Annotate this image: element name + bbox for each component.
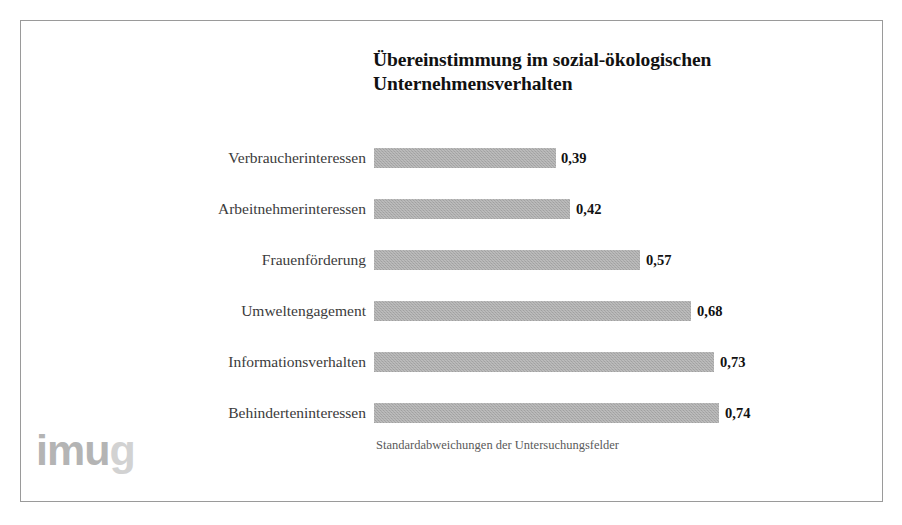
bar-track	[374, 301, 691, 321]
bar-track	[374, 250, 640, 270]
bar-track	[374, 403, 719, 423]
bar-fill	[374, 403, 719, 423]
bar-value-label: 0,68	[697, 302, 722, 319]
bar-track	[374, 199, 570, 219]
bar-fill	[374, 301, 691, 321]
bar-chart-plot-area: Verbraucherinteressen 0,39 Arbeitnehmeri…	[0, 136, 902, 420]
bar-fill	[374, 250, 640, 270]
bar-category-label: Behinderteninteressen	[228, 404, 366, 422]
chart-title-line-2: Unternehmensverhalten	[373, 72, 843, 96]
bar-row: Arbeitnehmerinteressen 0,42	[0, 187, 902, 230]
bar-value-label: 0,42	[576, 200, 601, 217]
bar-value-label: 0,73	[720, 353, 745, 370]
bar-fill	[374, 148, 556, 168]
bar-category-label: Umweltengagement	[241, 302, 366, 320]
bar-value-label: 0,39	[561, 149, 586, 166]
bar-fill	[374, 199, 570, 219]
imug-logo: imug	[36, 427, 135, 473]
bar-fill	[374, 352, 714, 372]
chart-figure: Übereinstimmung im sozial-ökologischen U…	[0, 0, 902, 525]
bar-category-label: Frauenförderung	[262, 251, 366, 269]
bar-row: Umweltengagement 0,68	[0, 289, 902, 332]
chart-caption: Standardabweichungen der Untersuchungsfe…	[376, 438, 619, 453]
bar-value-label: 0,74	[725, 404, 750, 421]
bar-row: Informationsverhalten 0,73	[0, 340, 902, 383]
logo-text-dark: imu	[36, 426, 109, 474]
logo-text-light: g	[109, 426, 134, 474]
bar-row: Frauenförderung 0,57	[0, 238, 902, 281]
bar-row: Verbraucherinteressen 0,39	[0, 136, 902, 179]
bar-category-label: Verbraucherinteressen	[228, 149, 366, 167]
bar-value-label: 0,57	[646, 251, 671, 268]
bar-row: Behinderteninteressen 0,74	[0, 391, 902, 434]
bar-track	[374, 148, 556, 168]
chart-title-line-1: Übereinstimmung im sozial-ökologischen	[373, 48, 843, 72]
bar-track	[374, 352, 714, 372]
bar-category-label: Arbeitnehmerinteressen	[218, 200, 366, 218]
chart-title: Übereinstimmung im sozial-ökologischen U…	[373, 48, 843, 96]
bar-category-label: Informationsverhalten	[228, 353, 366, 371]
